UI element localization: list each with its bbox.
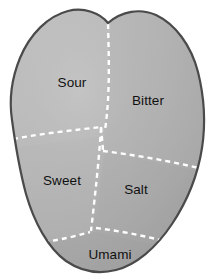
region-shade-sweet: [0, 136, 104, 244]
region-label-sour: Sour: [58, 75, 87, 90]
region-label-umami: Umami: [88, 247, 131, 262]
region-label-sweet: Sweet: [43, 173, 81, 188]
tongue-diagram-svg: Sour Bitter Sweet Salt Umami: [0, 0, 218, 279]
tongue-taste-map-diagram: Sour Bitter Sweet Salt Umami: [0, 0, 218, 279]
region-label-salt: Salt: [124, 182, 148, 197]
region-label-bitter: Bitter: [132, 93, 165, 108]
